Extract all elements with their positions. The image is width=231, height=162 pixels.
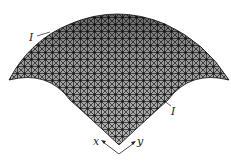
mesh-surface bbox=[0, 0, 231, 162]
x-axis-arrow bbox=[103, 142, 119, 154]
figure: I I x y bbox=[0, 0, 231, 162]
mesh-surface-diagram: I I x y bbox=[0, 0, 231, 162]
edge-label-top: I bbox=[28, 31, 34, 44]
axis-label-y: y bbox=[136, 135, 144, 148]
edge-label-right: I bbox=[170, 105, 176, 118]
axis-label-x: x bbox=[93, 135, 100, 148]
y-axis-arrow bbox=[119, 143, 134, 154]
